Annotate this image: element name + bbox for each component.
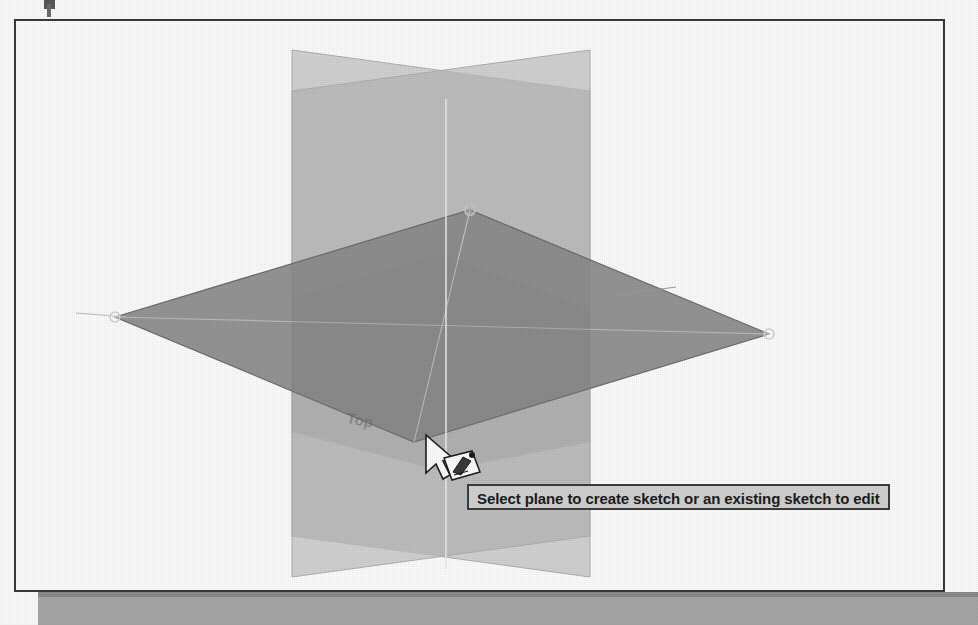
graphics-area[interactable]: Top <box>16 21 943 590</box>
plane-handle-left[interactable] <box>110 312 120 322</box>
status-tooltip: Select plane to create sketch or an exis… <box>467 484 890 510</box>
plane-handle-top[interactable] <box>465 205 475 215</box>
viewport-frame: Top <box>14 19 945 592</box>
page-shadow-edge <box>38 592 978 597</box>
scan-artifact-stub-neck <box>47 4 51 17</box>
scan-page: Top <box>0 0 978 625</box>
plane-handle-right[interactable] <box>764 329 774 339</box>
